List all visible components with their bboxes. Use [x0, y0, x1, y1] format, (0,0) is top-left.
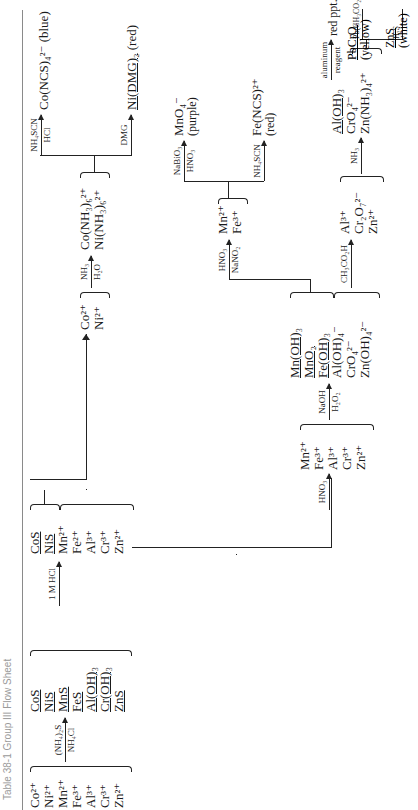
ion: Mn²⁺ [56, 779, 70, 808]
solid: CoS [28, 525, 42, 554]
co-test-product: Co(NCS)₄²⁻ (blue) [36, 11, 52, 110]
page-title: Table 38-1 Group III Flow Sheet [2, 659, 13, 800]
ni-test-product: Ni(DMG)₂ (red) [124, 25, 140, 110]
ion: CrO₄²⁻ [344, 72, 358, 134]
reagent-label: NaBiO₃ [173, 147, 183, 176]
precipitate-list: CoS NiS MnS FeS Al(OH)₃ Cr(OH)₃ ZnS [28, 667, 126, 712]
reaction-arrow-hno3-nano2: HNO₃ NaNO₂ [218, 240, 241, 280]
initial-ions-list: Co²⁺ Ni²⁺ Mn²⁺ Fe³⁺ Al³⁺ Cr³⁺ Zn²⁺ [28, 779, 126, 808]
ion: Zn²⁺ [366, 192, 380, 234]
color-label: (red) [264, 78, 277, 136]
reagent-label: HNO₃ [318, 481, 328, 504]
ion: Al³⁺ [84, 525, 98, 554]
complex: Ni(NH₃)₆²⁺ [92, 188, 106, 250]
arrow-icon [59, 562, 60, 606]
arrow-icon [91, 256, 92, 288]
rule-line [22, 10, 23, 810]
after-hcl-list: CoS NiS Mn²⁺ Fe²⁺ Al³⁺ Cr³⁺ Zn²⁺ [28, 525, 126, 554]
ion: Fe³⁺ [230, 205, 244, 234]
main-ions: Mn²⁺ Fe³⁺ Al³⁺ Cr³⁺ Zn²⁺ [298, 441, 368, 470]
ion: Mn²⁺ [56, 525, 70, 554]
ion: Fe³⁺ [70, 779, 84, 808]
connector-split [184, 181, 264, 182]
precipitate: Al(OH)₃ [84, 667, 98, 712]
ion: Mn²⁺ [298, 441, 312, 470]
reaction-arrow-hcl: 1 M HCl [48, 562, 61, 606]
arrow-icon [41, 115, 42, 155]
co-ni-ions: Co²⁺ Ni²⁺ [78, 304, 106, 330]
co-ni-complexes: Co(NH₃)₆²⁺ Ni(NH₃)₆²⁺ [78, 188, 106, 250]
connector [236, 554, 237, 555]
connector [228, 182, 229, 198]
brace [30, 650, 132, 656]
nh3-products: Al(OH)₃ CrO₄²⁻ Zn(NH₃)₄²⁺ [330, 72, 372, 134]
solid: MnO₂ [302, 321, 316, 378]
arrow-icon [131, 115, 132, 155]
brace-solids [290, 292, 334, 298]
precipitate: FeS [70, 667, 84, 712]
final-products-area: PbCrO₄ (yellow) ZnS (white) [346, 4, 418, 64]
color-label: (red) [124, 25, 139, 50]
naoh-products: Mn(OH)₃ MnO₂ Fe(OH)₃ Al(OH)₄⁻ CrO₄²⁻ Zn(… [288, 321, 372, 378]
complex: Co(NH₃)₆²⁺ [78, 188, 92, 250]
arrow-icon [184, 141, 185, 181]
arrow-icon [82, 334, 90, 340]
connector-split [40, 155, 132, 156]
arrow-icon [361, 138, 362, 174]
reaction-arrow-ni-test: DMG [120, 115, 133, 155]
reagent-label: H₂O₂ [331, 392, 341, 411]
brace-solids [30, 504, 60, 510]
arrow-icon [229, 240, 230, 280]
ion: Al(OH)₄⁻ [330, 321, 344, 378]
arrow-icon [329, 384, 330, 420]
ion: Fe²⁺ [70, 525, 84, 554]
color-label: (yellow) [359, 19, 372, 60]
connector-co-ni [86, 334, 87, 480]
ion: Zn(OH)₄²⁻ [358, 321, 372, 378]
reaction-arrow-mn-test: NaBiO₃ HNO₃ [173, 141, 196, 181]
ion: Al³⁺ [338, 192, 352, 234]
ion: Cr₂O₇²⁻ [352, 192, 366, 234]
ion: Al³⁺ [84, 779, 98, 808]
reagent-label: NaOH [318, 390, 328, 414]
precipitate: CoS [28, 667, 42, 712]
reagent-label: H₂O [93, 264, 103, 280]
brace [340, 176, 384, 182]
flow-sheet: Table 38-1 Group III Flow Sheet Co²⁺ Ni²… [0, 0, 418, 810]
connector-main [132, 547, 332, 548]
precipitate: MnS [56, 667, 70, 712]
mn-fe-ions: Mn²⁺ Fe³⁺ [216, 205, 244, 234]
color-label: (white) [397, 13, 410, 48]
solid: Fe(OH)₃ [316, 321, 330, 378]
solid: NiS [42, 525, 56, 554]
connector-co-ni [30, 479, 87, 480]
brace-solution [60, 504, 134, 510]
connector-mn-fe [230, 279, 311, 280]
ion: Fe³⁺ [312, 441, 326, 470]
reagent-label: aluminum [320, 42, 330, 79]
reagent-label: NH₄SCN [30, 118, 40, 152]
zn-test-product: ZnS (white) [384, 13, 410, 48]
precipitate: Cr(OH)₃ [98, 667, 112, 712]
mn-test-product: MnO₄⁻ (purple) [172, 97, 199, 136]
brace-solution [334, 292, 380, 298]
color-label: (purple) [186, 97, 199, 136]
ion: Zn(NH₃)₄²⁺ [358, 72, 372, 134]
arrow-icon [264, 141, 265, 181]
product: Co(NCS)₄²⁻ [36, 46, 51, 110]
reagent-label: HNO₃ [218, 249, 228, 272]
precipitate: NiS [42, 667, 56, 712]
precipitate: ZnS [112, 667, 126, 712]
reagent-label: NaNO₂ [231, 247, 241, 274]
reaction-arrow-ammonium-sulfide: (NH₄)₂S NH₄Cl [54, 718, 77, 762]
reagent-label: reagent [333, 47, 343, 73]
brace [218, 198, 248, 204]
arrow-icon [329, 474, 330, 510]
ion: Zn²⁺ [112, 779, 126, 808]
connector [44, 490, 45, 504]
arrow-icon [65, 718, 66, 762]
reagent-label: HNO₃ [186, 150, 196, 173]
connector [310, 280, 311, 292]
product: Fe(NCS)²⁺ [250, 78, 264, 136]
reagent-label: CH₃CO₂H [340, 245, 350, 283]
